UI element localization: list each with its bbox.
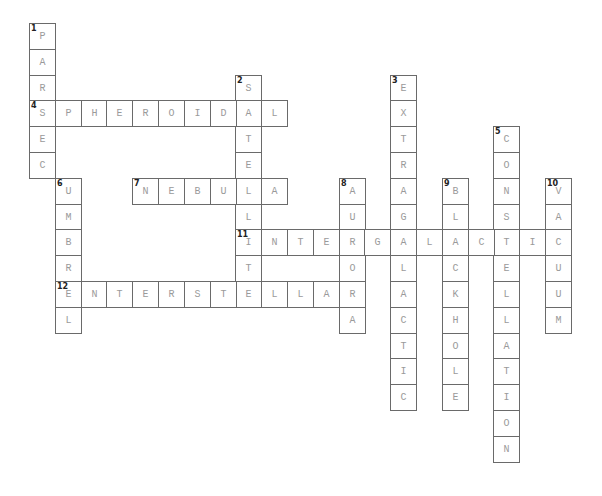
crossword-cell[interactable]: R — [132, 100, 159, 127]
crossword-cell[interactable]: 4S — [29, 100, 56, 127]
crossword-cell[interactable]: C — [545, 229, 572, 256]
crossword-cell[interactable]: A — [493, 333, 520, 360]
crossword-cell[interactable]: L — [493, 307, 520, 334]
crossword-cell[interactable]: R — [29, 75, 56, 102]
crossword-cell[interactable]: L — [442, 204, 469, 231]
crossword-cell[interactable]: 12E — [55, 281, 82, 308]
crossword-cell[interactable]: 1P — [29, 23, 56, 50]
crossword-cell[interactable]: R — [158, 281, 185, 308]
crossword-cell[interactable]: A — [390, 178, 417, 205]
crossword-cell[interactable]: O — [493, 152, 520, 179]
crossword-cell[interactable]: E — [29, 126, 56, 153]
crossword-cell[interactable]: 10V — [545, 178, 572, 205]
crossword-cell[interactable]: T — [390, 126, 417, 153]
crossword-cell[interactable]: C — [442, 255, 469, 282]
crossword-cell[interactable]: U — [545, 281, 572, 308]
crossword-cell[interactable]: P — [55, 100, 82, 127]
crossword-cell[interactable]: 3E — [390, 75, 417, 102]
crossword-cell[interactable]: A — [235, 100, 262, 127]
crossword-cell[interactable]: I — [493, 384, 520, 411]
crossword-cell[interactable]: O — [493, 410, 520, 437]
crossword-cell[interactable]: 2S — [235, 75, 262, 102]
crossword-cell[interactable]: A — [390, 229, 417, 256]
crossword-cell[interactable]: E — [158, 178, 185, 205]
crossword-cell[interactable]: 5C — [493, 126, 520, 153]
crossword-cell[interactable]: A — [29, 49, 56, 76]
crossword-cell[interactable]: C — [468, 229, 495, 256]
crossword-cell[interactable]: M — [55, 204, 82, 231]
crossword-cell[interactable]: L — [55, 307, 82, 334]
crossword-cell[interactable]: B — [55, 229, 82, 256]
crossword-cell[interactable]: X — [390, 100, 417, 127]
crossword-cell[interactable]: L — [390, 255, 417, 282]
crossword-cell[interactable]: 8A — [339, 178, 366, 205]
crossword-cell[interactable]: E — [493, 255, 520, 282]
crossword-cell[interactable]: K — [442, 281, 469, 308]
crossword-cell[interactable]: I — [519, 229, 546, 256]
crossword-cell[interactable]: B — [184, 178, 211, 205]
crossword-cell[interactable]: H — [442, 307, 469, 334]
crossword-cell[interactable]: U — [545, 255, 572, 282]
crossword-cell[interactable]: A — [339, 307, 366, 334]
crossword-cell[interactable]: R — [339, 281, 366, 308]
crossword-cell[interactable]: L — [287, 281, 314, 308]
cell-letter: C — [30, 153, 55, 178]
crossword-cell[interactable]: E — [313, 229, 340, 256]
cell-letter: C — [469, 230, 494, 255]
crossword-cell[interactable]: H — [81, 100, 108, 127]
crossword-cell[interactable]: L — [261, 281, 288, 308]
crossword-cell[interactable]: A — [545, 204, 572, 231]
crossword-cell[interactable]: T — [493, 229, 520, 256]
crossword-cell[interactable]: U — [339, 204, 366, 231]
crossword-cell[interactable]: D — [210, 100, 237, 127]
cell-letter: A — [262, 179, 287, 204]
crossword-cell[interactable]: T — [106, 281, 133, 308]
crossword-cell[interactable]: T — [287, 229, 314, 256]
crossword-cell[interactable]: U — [210, 178, 237, 205]
crossword-cell[interactable]: 11I — [235, 229, 262, 256]
crossword-cell[interactable]: 7N — [132, 178, 159, 205]
crossword-cell[interactable]: R — [339, 229, 366, 256]
crossword-cell[interactable]: C — [390, 307, 417, 334]
crossword-cell[interactable]: A — [261, 178, 288, 205]
crossword-cell[interactable]: R — [390, 152, 417, 179]
crossword-cell[interactable]: G — [364, 229, 391, 256]
crossword-cell[interactable]: L — [493, 281, 520, 308]
crossword-cell[interactable]: A — [442, 229, 469, 256]
crossword-cell[interactable]: G — [390, 204, 417, 231]
crossword-cell[interactable]: L — [235, 204, 262, 231]
crossword-cell[interactable]: A — [313, 281, 340, 308]
crossword-cell[interactable]: C — [29, 152, 56, 179]
crossword-cell[interactable]: N — [493, 436, 520, 463]
crossword-cell[interactable]: I — [184, 100, 211, 127]
crossword-cell[interactable]: A — [390, 281, 417, 308]
crossword-cell[interactable]: S — [184, 281, 211, 308]
crossword-cell[interactable]: O — [442, 333, 469, 360]
crossword-cell[interactable]: L — [235, 178, 262, 205]
crossword-cell[interactable]: L — [261, 100, 288, 127]
crossword-cell[interactable]: 6U — [55, 178, 82, 205]
crossword-cell[interactable]: T — [235, 126, 262, 153]
crossword-cell[interactable]: I — [390, 358, 417, 385]
crossword-cell[interactable]: L — [416, 229, 443, 256]
crossword-cell[interactable]: R — [55, 255, 82, 282]
crossword-cell[interactable]: E — [106, 100, 133, 127]
crossword-cell[interactable]: T — [493, 358, 520, 385]
crossword-cell[interactable]: C — [390, 384, 417, 411]
crossword-cell[interactable]: L — [442, 358, 469, 385]
crossword-cell[interactable]: O — [158, 100, 185, 127]
crossword-cell[interactable]: N — [261, 229, 288, 256]
crossword-cell[interactable]: N — [493, 178, 520, 205]
crossword-cell[interactable]: M — [545, 307, 572, 334]
crossword-cell[interactable]: S — [493, 204, 520, 231]
crossword-cell[interactable]: 9B — [442, 178, 469, 205]
crossword-cell[interactable]: N — [81, 281, 108, 308]
crossword-cell[interactable]: E — [132, 281, 159, 308]
crossword-cell[interactable]: T — [390, 333, 417, 360]
crossword-cell[interactable]: T — [235, 255, 262, 282]
crossword-cell[interactable]: E — [235, 152, 262, 179]
crossword-cell[interactable]: O — [339, 255, 366, 282]
crossword-cell[interactable]: T — [210, 281, 237, 308]
crossword-cell[interactable]: E — [235, 281, 262, 308]
crossword-cell[interactable]: E — [442, 384, 469, 411]
